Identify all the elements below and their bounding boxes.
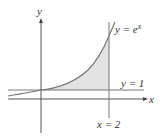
y-axis-arrow-icon	[39, 18, 43, 23]
curve-label-y-equals-1: y = 1	[120, 77, 144, 89]
diagram-canvas: y x y = ex y = 1 x = 2	[0, 0, 160, 137]
x-axis-arrow-icon	[143, 97, 148, 101]
y-axis-label: y	[36, 5, 42, 17]
shaded-region	[41, 36, 109, 90]
x-axis-label: x	[148, 93, 154, 105]
curve-label-x-equals-2: x = 2	[96, 118, 121, 130]
curve-label-exponential: y = ex	[114, 22, 142, 35]
